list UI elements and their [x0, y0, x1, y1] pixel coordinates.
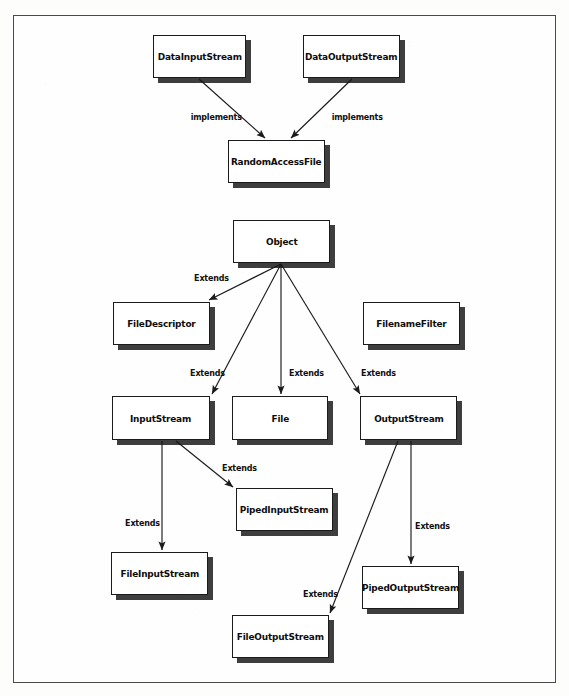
- edge-label-extends-4: Extends: [289, 368, 324, 378]
- class-box-inputstream[interactable]: InputStream: [112, 396, 210, 440]
- edge-label-extends-6: Extends: [125, 518, 160, 528]
- class-diagram-canvas: DataInputStreamDataOutputStreamRandomAcc…: [0, 0, 569, 696]
- class-box-fileoutputstream[interactable]: FileOutputStream: [232, 615, 329, 658]
- class-box-randomaccessfile[interactable]: RandomAccessFile: [228, 140, 325, 183]
- class-box-label: FileOutputStream: [237, 631, 324, 642]
- class-box-label: FileDescriptor: [127, 318, 195, 329]
- class-box-label: DataOutputStream: [305, 51, 397, 62]
- edge-layer: [0, 0, 569, 696]
- class-box-label: FilenameFilter: [376, 318, 446, 329]
- edge-dataoutputstream-to-randomaccessfile: [291, 79, 352, 138]
- class-box-label: PipedOutputStream: [362, 582, 459, 593]
- edge-label-implements-0: implements: [191, 112, 242, 122]
- edge-label-extends-3: Extends: [190, 368, 225, 378]
- edge-datainputstream-to-randomaccessfile: [199, 79, 265, 138]
- class-box-fileinputstream[interactable]: FileInputStream: [111, 552, 208, 595]
- class-box-label: Object: [266, 236, 298, 247]
- class-box-outputstream[interactable]: OutputStream: [360, 396, 457, 440]
- edge-label-implements-1: implements: [332, 112, 383, 122]
- edge-label-extends-5: Extends: [361, 368, 396, 378]
- edge-label-extends-9: Extends: [303, 589, 338, 599]
- class-box-dataoutputstream[interactable]: DataOutputStream: [303, 35, 400, 78]
- class-box-label: File: [271, 413, 289, 424]
- edge-label-extends-2: Extends: [194, 273, 229, 283]
- class-box-pipedoutputstream[interactable]: PipedOutputStream: [362, 566, 459, 609]
- edge-label-extends-8: Extends: [415, 521, 450, 531]
- class-box-label: DataInputStream: [157, 51, 241, 62]
- class-box-datainputstream[interactable]: DataInputStream: [153, 35, 246, 78]
- class-box-filenamefilter[interactable]: FilenameFilter: [363, 302, 460, 345]
- class-box-label: OutputStream: [374, 413, 443, 424]
- class-box-object[interactable]: Object: [233, 220, 330, 263]
- class-box-filedescriptor[interactable]: FileDescriptor: [113, 302, 210, 345]
- class-box-pipedinputstream[interactable]: PipedInputStream: [236, 488, 333, 531]
- class-box-label: InputStream: [130, 413, 191, 424]
- class-box-label: RandomAccessFile: [231, 156, 322, 167]
- edge-label-extends-7: Extends: [222, 463, 257, 473]
- class-box-file[interactable]: File: [232, 396, 328, 440]
- class-box-label: FileInputStream: [120, 568, 199, 579]
- class-box-label: PipedInputStream: [240, 504, 329, 515]
